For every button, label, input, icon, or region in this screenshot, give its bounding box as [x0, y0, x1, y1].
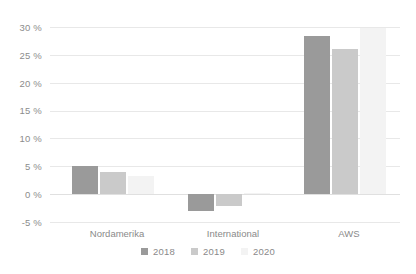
x-label-international: International: [168, 228, 298, 239]
y-tick-label: 5 %: [2, 161, 42, 172]
legend-item-2019[interactable]: 2019: [191, 246, 225, 257]
legend-swatch-icon: [141, 248, 148, 255]
bar-international-2019: [216, 194, 242, 206]
gridline-minus5: [50, 222, 400, 223]
bar-aws-2019: [332, 49, 358, 194]
y-tick-label: 30 %: [2, 22, 42, 33]
plot-area: [50, 27, 400, 222]
legend-label: 2018: [153, 246, 175, 257]
bar-nordamerika-2018: [72, 166, 98, 194]
legend-swatch-icon: [241, 248, 248, 255]
bar-international-2020: [244, 193, 270, 194]
legend-label: 2020: [253, 246, 275, 257]
x-label-aws: AWS: [284, 228, 414, 239]
y-tick-label: 0 %: [2, 189, 42, 200]
bar-aws-2018: [304, 36, 330, 194]
y-tick-label: 15 %: [2, 105, 42, 116]
chart-legend: 2018 2019 2020: [0, 246, 416, 257]
bar-international-2018: [188, 194, 214, 211]
legend-label: 2019: [203, 246, 225, 257]
y-tick-label: 25 %: [2, 50, 42, 61]
y-tick-label: 10 %: [2, 133, 42, 144]
x-label-nordamerika: Nordamerika: [52, 228, 182, 239]
bar-chart: 30 % 25 % 20 % 15 % 10 % 5 % 0 % -5 % No…: [0, 0, 416, 274]
gridline-30: [50, 27, 400, 28]
legend-swatch-icon: [191, 248, 198, 255]
bar-nordamerika-2020: [128, 176, 154, 194]
bar-nordamerika-2019: [100, 172, 126, 194]
y-tick-label: -5 %: [2, 217, 42, 228]
y-tick-label: 20 %: [2, 78, 42, 89]
legend-item-2018[interactable]: 2018: [141, 246, 175, 257]
legend-item-2020[interactable]: 2020: [241, 246, 275, 257]
bar-aws-2020: [360, 28, 386, 195]
